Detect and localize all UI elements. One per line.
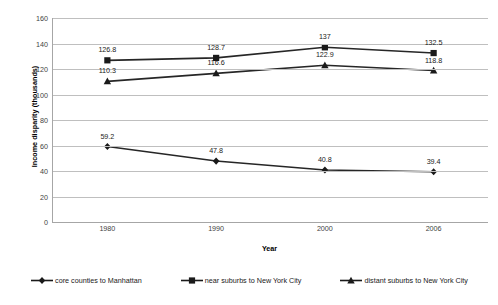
legend-label: distant suburbs to New York City [364, 276, 467, 285]
legend-item[interactable]: core counties to Manhattan [30, 276, 142, 285]
legend-item[interactable]: near suburbs to New York City [180, 276, 302, 285]
legend-label: near suburbs to New York City [205, 276, 302, 285]
data-point-marker [104, 143, 111, 150]
chart-legend: core counties to Manhattannear suburbs t… [0, 276, 498, 285]
x-axis-title: Year [52, 244, 487, 253]
series-line [107, 147, 433, 172]
data-point-marker [213, 157, 220, 164]
y-axis-tick-label: 20 [40, 192, 48, 201]
gridline [53, 44, 488, 45]
legend-marker-diamond-icon [30, 276, 54, 285]
y-axis-tick-label: 0 [44, 218, 48, 227]
gridline [53, 171, 488, 172]
data-point-marker [322, 166, 329, 173]
x-axis-tick-label: 2000 [317, 224, 333, 233]
y-axis-title: Income disparity (thousands) [30, 32, 39, 202]
data-point-marker [213, 55, 219, 61]
plot-area: 020406080100120140160198019902000200659.… [52, 18, 488, 223]
data-point-marker [189, 277, 195, 283]
gridline [53, 146, 488, 147]
y-axis-tick-label: 140 [36, 39, 48, 48]
data-point-marker [322, 44, 328, 50]
gridline [53, 69, 488, 70]
legend-label: core counties to Manhattan [55, 276, 142, 285]
y-axis-tick-label: 60 [40, 141, 48, 150]
series-line [107, 47, 433, 60]
legend-marker-square-icon [180, 276, 204, 285]
gridline [53, 197, 488, 198]
legend-marker-triangle-icon [339, 276, 363, 285]
data-point-marker [104, 57, 110, 63]
y-axis-tick-label: 120 [36, 65, 48, 74]
y-axis-tick-label: 160 [36, 14, 48, 23]
x-axis-tick-label: 2006 [426, 224, 442, 233]
y-axis-tick-label: 80 [40, 116, 48, 125]
y-axis-tick-label: 40 [40, 167, 48, 176]
gridline [53, 95, 488, 96]
x-axis-tick-label: 1980 [99, 224, 115, 233]
gridline [53, 120, 488, 121]
data-point-marker [39, 277, 46, 284]
legend-item[interactable]: distant suburbs to New York City [339, 276, 467, 285]
series-line [107, 65, 433, 81]
x-axis-tick-label: 1990 [208, 224, 224, 233]
y-axis-tick-label: 100 [36, 90, 48, 99]
data-point-marker [431, 50, 437, 56]
gridline [53, 18, 488, 19]
line-chart: Income disparity (thousands) 02040608010… [0, 0, 498, 305]
